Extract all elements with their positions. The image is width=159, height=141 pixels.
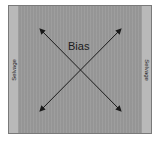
bias-arrows (0, 0, 159, 141)
bias-label: Bias (68, 40, 89, 52)
